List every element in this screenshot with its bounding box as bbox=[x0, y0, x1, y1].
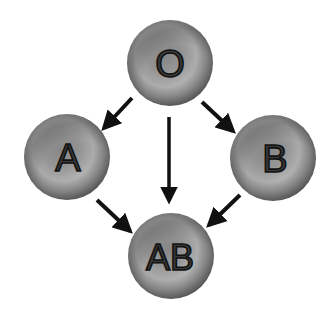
node-o: O bbox=[127, 20, 213, 106]
node-label-o: O bbox=[155, 43, 185, 85]
blood-type-diagram: O A B AB bbox=[0, 0, 331, 312]
node-ab: AB bbox=[128, 213, 214, 299]
node-label-b: B bbox=[262, 138, 287, 180]
arrow-o-to-a bbox=[104, 98, 132, 128]
arrow-b-to-ab bbox=[209, 195, 240, 225]
node-a: A bbox=[24, 114, 110, 200]
node-b: B bbox=[230, 115, 316, 201]
arrow-a-to-ab bbox=[97, 200, 130, 231]
arrows bbox=[97, 98, 240, 231]
node-label-ab: AB bbox=[146, 237, 194, 278]
arrow-o-to-b bbox=[202, 102, 233, 131]
node-label-a: A bbox=[55, 137, 81, 179]
